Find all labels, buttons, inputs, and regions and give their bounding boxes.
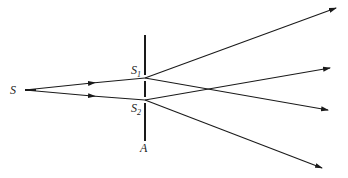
incident-ray-to-s2-second-half (92, 96, 145, 100)
ray-s2-lower (145, 100, 322, 168)
slit1-label-subscript: 1 (137, 70, 141, 79)
slit2-label: S2 (131, 101, 141, 117)
ray-s1-lower (145, 78, 328, 110)
double-slit-diagram: S S1 S2 A (0, 0, 348, 178)
slit2-label-subscript: 2 (137, 108, 141, 117)
incident-ray-to-s1-first-half (25, 83, 92, 90)
ray-s1-upper (145, 8, 336, 78)
source-label: S (10, 83, 16, 97)
slit1-label: S1 (131, 63, 141, 79)
barrier-label: A (139, 141, 148, 155)
ray-s2-upper (145, 68, 330, 100)
